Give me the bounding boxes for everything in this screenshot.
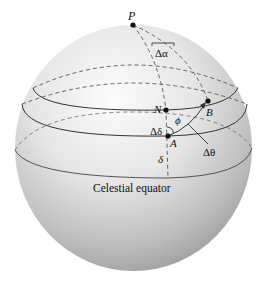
label-b: B (206, 106, 213, 118)
label-delta-delta: Δδ (150, 125, 162, 137)
label-celestial-equator: Celestial equator (93, 182, 171, 195)
point-b-marker (205, 98, 210, 103)
label-delta-alpha: Δα (155, 47, 168, 59)
label-n: N (153, 103, 162, 115)
label-a: A (169, 137, 177, 149)
sphere-svg: P Δα N B ϕ Δδ A Δθ δ Celestial equator (0, 0, 267, 283)
label-p: P (127, 9, 136, 23)
point-n-marker (163, 107, 168, 112)
point-p-marker (130, 22, 135, 27)
label-delta: δ (158, 153, 164, 165)
label-phi: ϕ (175, 114, 181, 126)
sphere (15, 25, 252, 271)
celestial-sphere-diagram: P Δα N B ϕ Δδ A Δθ δ Celestial equator (0, 0, 267, 283)
label-delta-theta: Δθ (203, 146, 215, 158)
